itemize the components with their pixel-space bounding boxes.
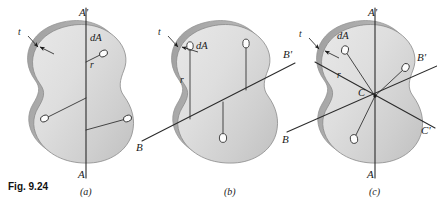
label-da-a: dA bbox=[90, 32, 102, 43]
label-r-b: r bbox=[180, 75, 184, 85]
area-element-da-b-2 bbox=[243, 39, 249, 48]
label-axis-a-bottom: A bbox=[77, 168, 85, 180]
figure-caption: Fig. 9.24 bbox=[8, 181, 48, 192]
label-thickness-c: t bbox=[299, 29, 302, 39]
panel-label-b: (b) bbox=[224, 186, 236, 198]
label-centroid-c: C bbox=[358, 87, 366, 98]
label-thickness-a: t bbox=[18, 27, 21, 37]
plate-body-a bbox=[28, 21, 134, 164]
panel-label-a: (a) bbox=[80, 186, 92, 198]
centroid-point-c bbox=[373, 94, 376, 97]
panel-c: t dA r C A' A B B' C' (c) bbox=[282, 6, 437, 198]
label-da-b: dA bbox=[196, 40, 208, 51]
label-axis-a-top: A' bbox=[78, 6, 89, 18]
label-r-a: r bbox=[90, 60, 94, 70]
figure-9-24-svg: t dA r A' A (a) t dA r B B' (b) bbox=[0, 0, 437, 203]
label-axis-c-right-upper: B' bbox=[417, 51, 427, 63]
label-r-c: r bbox=[337, 70, 341, 80]
panel-label-c: (c) bbox=[369, 186, 381, 198]
figure-container: t dA r A' A (a) t dA r B B' (b) bbox=[0, 0, 437, 203]
label-axis-c-top: A' bbox=[367, 6, 378, 18]
label-axis-c-right-lower: C' bbox=[421, 124, 431, 136]
area-element-da-b-3 bbox=[219, 134, 226, 143]
label-axis-c-bottom: A bbox=[366, 168, 374, 180]
label-axis-c-left: B bbox=[282, 133, 289, 145]
panel-a: t dA r A' A (a) bbox=[18, 6, 134, 198]
label-thickness-b: t bbox=[158, 27, 161, 37]
panel-b: t dA r B B' (b) bbox=[136, 21, 295, 199]
label-axis-b-left: B bbox=[136, 141, 143, 153]
label-axis-b-right: B' bbox=[283, 48, 293, 60]
label-da-c: dA bbox=[337, 30, 349, 41]
